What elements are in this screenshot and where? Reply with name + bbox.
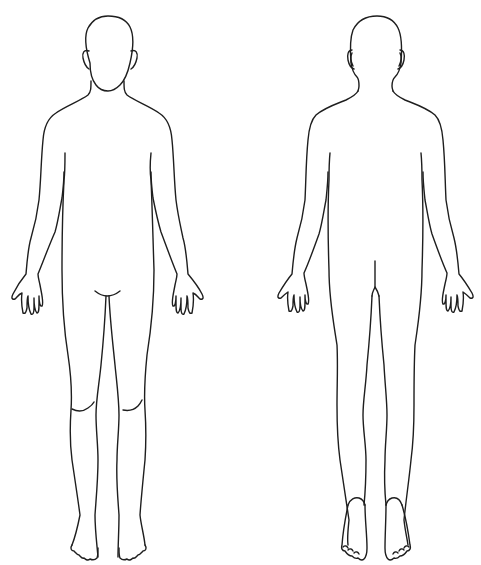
front-left-foot [71, 545, 98, 560]
back-right-torso-leg [404, 153, 423, 545]
back-right-heel-line [386, 498, 402, 505]
back-right-toes [393, 546, 409, 554]
back-left-toes [343, 546, 359, 554]
back-right-side [393, 91, 473, 312]
front-right-side [124, 81, 203, 314]
back-gluteal-split [375, 287, 379, 296]
front-left-knee [72, 402, 94, 411]
front-groin-line [95, 291, 120, 296]
front-body-figure[interactable] [12, 16, 203, 560]
front-head [86, 16, 133, 91]
back-head [350, 16, 401, 91]
front-right-foot [119, 545, 146, 560]
front-right-knee [123, 400, 142, 410]
back-gluteal-line [372, 261, 375, 296]
body-diagram-canvas [0, 0, 481, 565]
back-right-inner-leg [379, 296, 387, 505]
back-left-foot [342, 505, 367, 560]
front-right-armpit-line [140, 153, 154, 545]
front-left-armpit-line [62, 153, 80, 545]
front-left-side [12, 81, 91, 314]
back-left-heel-line [348, 498, 365, 505]
back-right-foot [385, 505, 410, 560]
front-right-inner-leg [109, 296, 119, 557]
back-left-side [278, 91, 358, 312]
front-left-inner-leg [95, 296, 106, 557]
back-body-figure[interactable] [278, 16, 473, 560]
back-left-torso-leg [328, 153, 349, 545]
back-left-inner-leg [363, 296, 372, 505]
